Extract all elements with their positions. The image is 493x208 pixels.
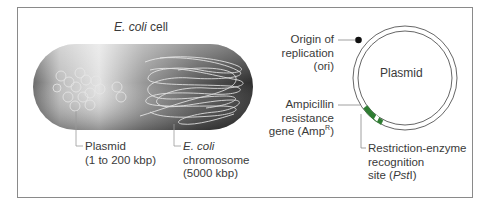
chromosome-label-line2: chromosome — [183, 154, 249, 168]
psti-label-line2: recognition — [368, 156, 466, 170]
ori-label-line3: (ori) — [282, 60, 334, 74]
ori-marker — [355, 37, 362, 44]
ecoli-cell — [33, 44, 253, 130]
ori-label-line1: Origin of — [282, 33, 334, 47]
ori-label: Origin of replication (ori) — [282, 33, 334, 74]
psti-label-line3-pre: site ( — [368, 169, 393, 181]
amp-label-line3-pre: gene (Amp — [269, 125, 325, 137]
amp-label: Ampicillin resistance gene (AmpR) — [269, 98, 334, 139]
plasmid-label: Plasmid (1 to 200 kbp) — [85, 140, 156, 167]
ori-label-line2: replication — [282, 47, 334, 61]
plasmid-center-label: Plasmid — [380, 67, 423, 81]
cell-title: E. coli cell — [114, 21, 168, 35]
chromosome-label-line3: (5000 kbp) — [183, 167, 249, 181]
plasmid-label-line2: (1 to 200 kbp) — [85, 154, 156, 168]
amp-label-line3-post: ) — [330, 125, 334, 137]
amp-label-line2: resistance — [269, 112, 334, 126]
amp-label-line1: Ampicillin — [269, 98, 334, 112]
cell-title-rest: cell — [147, 20, 168, 34]
psti-label-line1: Restriction-enzyme — [368, 142, 466, 156]
plasmid-label-line1: Plasmid — [85, 140, 156, 154]
cell-title-species: E. coli — [114, 20, 147, 34]
chromosome-label-species: E. coli — [183, 140, 214, 152]
psti-label-line3-italic: Pst — [393, 169, 410, 181]
psti-label-line3-post: I) — [410, 169, 417, 181]
chromosome-label: E. coli chromosome (5000 kbp) — [183, 140, 249, 181]
psti-label: Restriction-enzyme recognition site (Pst… — [368, 142, 466, 183]
